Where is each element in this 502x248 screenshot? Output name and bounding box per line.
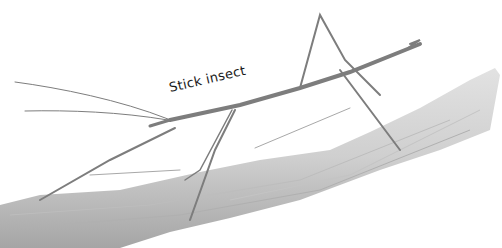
- stick-insect-drawing: [0, 0, 502, 248]
- branch: [0, 68, 500, 248]
- illustration: Stick insect: [0, 0, 502, 248]
